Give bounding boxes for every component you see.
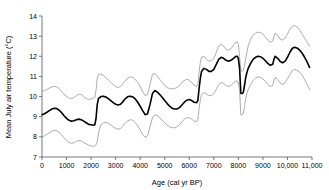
y-tick-label: 8 — [33, 133, 37, 140]
x-tick-label: 7000 — [206, 162, 222, 169]
y-tick-label: 13 — [29, 33, 37, 40]
x-tick-label: 3000 — [108, 162, 124, 169]
x-tick-label: 9000 — [255, 162, 271, 169]
y-tick-label: 14 — [29, 13, 37, 20]
y-tick-label: 11 — [30, 73, 37, 80]
temperature-reconstruction-figure: 7891011121314 01000200030004000500060007… — [0, 0, 329, 190]
x-tick-label: 5000 — [157, 162, 173, 169]
x-tick-label: 11,000 — [302, 162, 323, 169]
x-tick-label: 10,000 — [277, 162, 299, 169]
y-tick-label: 10 — [29, 93, 37, 100]
y-tick-label: 7 — [33, 154, 37, 161]
x-tick-label: 8000 — [231, 162, 247, 169]
x-tick-label: 6000 — [181, 162, 197, 169]
upper-confidence-bound — [42, 26, 310, 100]
x-tick-group: 010002000300040005000600070008000900010,… — [40, 157, 323, 169]
y-tick-group: 7891011121314 — [29, 13, 42, 161]
y-tick-label: 9 — [33, 113, 37, 120]
x-tick-label: 4000 — [132, 162, 148, 169]
y-axis-title: Mean July air temperature (°C) — [4, 35, 13, 138]
data-series-group — [42, 26, 310, 147]
y-tick-label: 12 — [29, 53, 37, 60]
x-tick-label: 1000 — [59, 162, 75, 169]
chart-canvas: 7891011121314 01000200030004000500060007… — [0, 0, 329, 190]
x-tick-label: 2000 — [83, 162, 99, 169]
x-axis-title: Age (cal yr BP) — [152, 178, 203, 187]
axes-group — [42, 16, 312, 157]
x-tick-label: 0 — [40, 162, 44, 169]
lower-confidence-bound — [42, 69, 310, 146]
